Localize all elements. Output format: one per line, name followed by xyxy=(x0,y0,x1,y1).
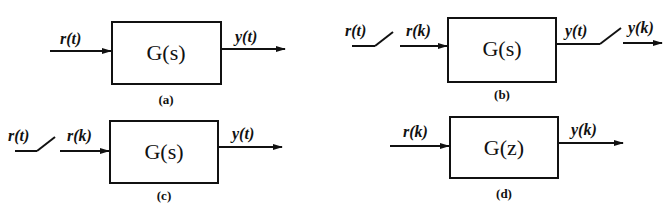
output-sampler-switch xyxy=(600,28,621,44)
input-sampler-switch xyxy=(37,137,55,151)
block-label: G(s) xyxy=(144,139,183,164)
output-continuous-label: y(t) xyxy=(563,22,587,40)
input-continuous-label: r(t) xyxy=(8,127,29,145)
caption: (b) xyxy=(494,87,510,102)
panel-c: r(t) r(k) G(s) y(t) (c) xyxy=(8,121,282,203)
input-sampled-label: r(k) xyxy=(406,22,431,40)
block-label: G(s) xyxy=(146,40,185,65)
block-label: G(z) xyxy=(484,135,524,160)
input-sampled-label: r(k) xyxy=(67,127,92,145)
caption: (d) xyxy=(496,186,512,201)
block-label: G(s) xyxy=(482,36,521,61)
output-label: y(t) xyxy=(233,28,257,46)
input-continuous-label: r(t) xyxy=(345,22,366,40)
caption: (c) xyxy=(157,188,171,203)
panel-b: r(t) r(k) G(s) y(t) y(k) (b) xyxy=(345,18,662,102)
input-sampler-switch xyxy=(375,32,393,46)
input-label: r(t) xyxy=(60,30,81,48)
input-label: r(k) xyxy=(403,123,428,141)
panel-a: r(t) G(s) y(t) (a) xyxy=(50,22,285,107)
output-sampled-label: y(k) xyxy=(626,19,654,37)
caption: (a) xyxy=(158,92,173,107)
output-label: y(t) xyxy=(230,125,254,143)
panel-d: r(k) G(z) y(k) (d) xyxy=(390,117,623,201)
output-label: y(k) xyxy=(569,121,597,139)
block-diagram-figure: r(t) G(s) y(t) (a) r(t) r(k) G(s) y(t) y… xyxy=(0,0,667,211)
